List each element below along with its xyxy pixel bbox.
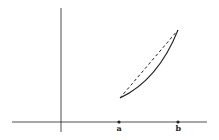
secant-chord [120, 30, 178, 98]
convexity-diagram: a b [0, 0, 219, 140]
label-b: b [176, 123, 182, 133]
label-a: a [117, 123, 122, 133]
